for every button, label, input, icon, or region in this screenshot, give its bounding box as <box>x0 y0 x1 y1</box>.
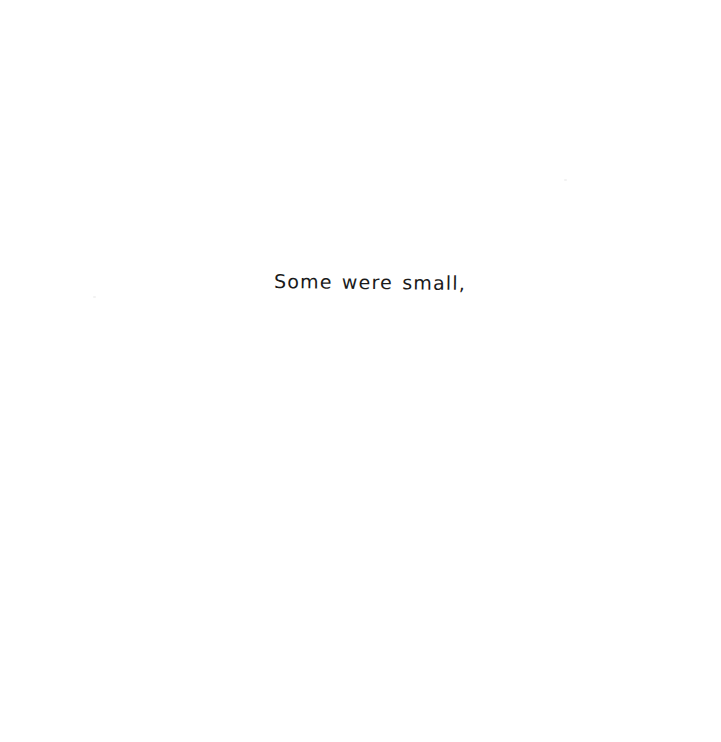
book-page: Some were small, <box>0 0 721 742</box>
scan-speck <box>93 296 96 298</box>
scan-speck <box>564 179 567 181</box>
story-text-line: Some were small, <box>274 267 474 297</box>
